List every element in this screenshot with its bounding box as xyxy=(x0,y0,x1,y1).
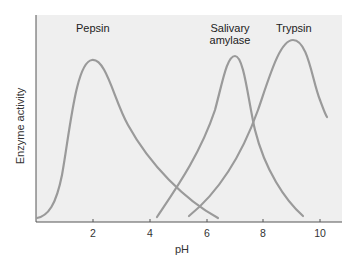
x-tick-label: 6 xyxy=(197,227,217,239)
amylase-label-line2: amylase xyxy=(205,34,255,46)
x-tick-label: 2 xyxy=(83,227,103,239)
pepsin-label: Pepsin xyxy=(76,22,110,34)
amylase-label-line1: Salivary xyxy=(205,22,255,34)
plot-area xyxy=(0,0,360,267)
x-tick-label: 8 xyxy=(253,227,273,239)
x-axis-label: pH xyxy=(175,243,189,255)
plot-background xyxy=(36,15,342,222)
trypsin-label: Trypsin xyxy=(276,22,312,34)
amylase-label: Salivary amylase xyxy=(205,22,255,46)
x-tick-label: 10 xyxy=(310,227,330,239)
y-axis-label: Enzyme activity xyxy=(14,86,26,166)
chart: Pepsin Salivary amylase Trypsin 2 4 6 8 … xyxy=(0,0,360,267)
x-tick-label: 4 xyxy=(140,227,160,239)
